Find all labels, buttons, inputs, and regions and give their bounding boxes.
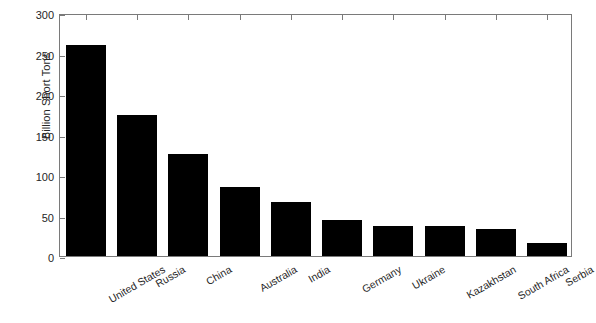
- x-tick-mark-top: [137, 15, 138, 20]
- x-tick-label: Serbia: [563, 263, 595, 289]
- x-tick-mark-top: [86, 15, 87, 20]
- x-tick-mark-top: [188, 15, 189, 20]
- y-tick-mark: [60, 15, 65, 16]
- plot-area: 050100150200250300: [59, 14, 572, 257]
- x-tick-label: China: [204, 263, 234, 287]
- x-tick-mark-top: [342, 15, 343, 20]
- x-tick-mark-top: [445, 15, 446, 20]
- y-tick-label: 100: [36, 172, 54, 183]
- y-tick-mark: [60, 137, 65, 138]
- x-tick-mark-top: [547, 15, 548, 20]
- y-tick-label: 150: [36, 131, 54, 142]
- bar: [322, 220, 362, 256]
- x-tick-label: Ukraine: [410, 263, 447, 291]
- bar: [220, 187, 260, 256]
- x-tick-mark-top: [496, 15, 497, 20]
- y-tick-mark: [60, 218, 65, 219]
- y-tick-label: 250: [36, 50, 54, 61]
- bar: [66, 45, 106, 256]
- x-tick-label: India: [306, 263, 332, 285]
- bar: [271, 202, 311, 256]
- x-tick-label: Germany: [360, 263, 403, 295]
- y-tick-label: 0: [48, 253, 54, 264]
- y-tick-mark: [60, 56, 65, 57]
- x-axis-labels: United StatesRussiaChinaAustraliaIndiaGe…: [59, 257, 572, 323]
- x-tick-mark-top: [393, 15, 394, 20]
- x-tick-label: Kazakhstan: [464, 263, 518, 301]
- bar: [117, 115, 157, 256]
- x-tick-mark-top: [291, 15, 292, 20]
- y-tick-label: 200: [36, 91, 54, 102]
- y-tick-mark: [60, 177, 65, 178]
- y-tick-label: 300: [36, 10, 54, 21]
- x-tick-label: South Africa: [516, 263, 571, 302]
- y-tick-label: 50: [42, 212, 54, 223]
- bar: [168, 154, 208, 256]
- y-tick-mark: [60, 96, 65, 97]
- bar: [373, 226, 413, 256]
- x-tick-mark-top: [240, 15, 241, 20]
- bar: [476, 229, 516, 256]
- bar: [527, 243, 567, 256]
- bar: [425, 226, 465, 256]
- x-tick-label: Australia: [257, 263, 298, 294]
